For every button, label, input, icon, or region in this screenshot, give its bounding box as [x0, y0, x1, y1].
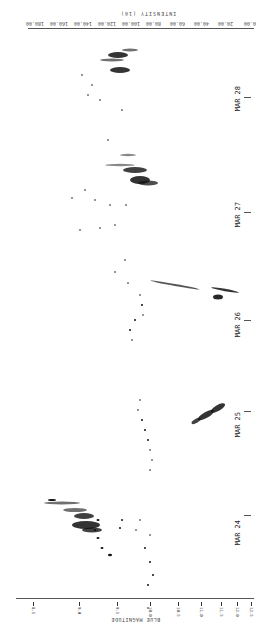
date-label: MAR 27 — [234, 202, 242, 227]
date-tick — [244, 212, 251, 213]
date-tick — [244, 320, 251, 321]
magnitude-tick: 11.0 — [200, 602, 203, 612]
scatter-plot-area — [0, 0, 271, 641]
date-tick — [244, 97, 251, 98]
data-points-mar26 — [114, 259, 239, 341]
date-tick — [244, 515, 251, 516]
date-tick — [244, 411, 251, 412]
magnitude-axis-title: BLUE MAGNITUDE — [111, 617, 160, 623]
magnitude-tick: 10.5 — [177, 602, 180, 612]
date-label: MAR 24 — [234, 520, 242, 545]
date-label: MAR 25 — [234, 412, 242, 437]
date-label: MAR 28 — [234, 86, 242, 111]
magnitude-tick: 12.0 — [236, 602, 239, 612]
magnitude-tick: 9.5 — [116, 602, 119, 612]
magnitude-tick: 12.5 — [250, 602, 253, 612]
date-label: MAR 26 — [234, 312, 242, 337]
magnitude-tick: 10.0 — [149, 602, 152, 612]
magnitude-axis-line — [16, 598, 254, 599]
magnitude-tick: 9.0 — [78, 602, 81, 612]
data-points-mar24 — [44, 499, 154, 609]
magnitude-tick: 11.5 — [220, 602, 223, 612]
data-points-mar25 — [137, 399, 226, 471]
data-points-mar27 — [71, 139, 158, 231]
data-points-mar28 — [81, 49, 138, 111]
magnitude-tick: 8.5 — [32, 602, 35, 612]
